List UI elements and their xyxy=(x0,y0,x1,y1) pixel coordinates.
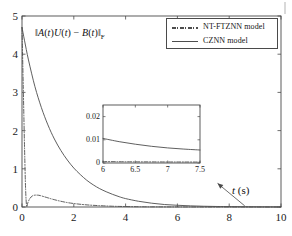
inset-y-tick-label: 0.01 xyxy=(86,136,100,144)
y-tick-label: 3 xyxy=(13,87,19,98)
legend-label-ntftznn: NT-FTZNN model xyxy=(203,22,265,31)
y-tick-label: 2 xyxy=(13,126,19,137)
legend-sample-solid xyxy=(172,41,198,42)
x-tick-label: 4 xyxy=(123,212,129,223)
figure-container: ‖A(t)U(t) − B(t)‖F t (s) NT-FTZNN model … xyxy=(0,0,292,236)
legend-sample-dashdot xyxy=(172,27,198,29)
inset-y-tick-label: 0.02 xyxy=(86,113,100,121)
y-tick-label: 5 xyxy=(13,11,19,22)
x-tick-label: 10 xyxy=(276,212,287,223)
x-axis-label: t (s) xyxy=(232,184,249,196)
legend-entry-ntftznn: NT-FTZNN model xyxy=(167,21,277,35)
y-axis-label: ‖A(t)U(t) − B(t)‖F xyxy=(35,27,105,41)
x-tick-label: 0 xyxy=(19,212,25,223)
y-tick-label: 1 xyxy=(13,164,19,175)
inset-x-tick-label: 6 xyxy=(101,166,105,174)
inset-x-tick-label: 7.5 xyxy=(195,166,205,174)
inset-plot-frame xyxy=(103,105,200,163)
y-tick-label: 4 xyxy=(13,49,19,60)
inset-x-tick-label: 7 xyxy=(166,166,170,174)
legend-label-cznn: CZNN model xyxy=(203,36,248,45)
x-tick-label: 8 xyxy=(226,212,232,223)
inset-x-tick-label: 6.5 xyxy=(130,166,140,174)
inset-y-tick-label: 0 xyxy=(96,159,100,167)
legend-entry-cznn: CZNN model xyxy=(167,35,277,49)
x-tick-label: 6 xyxy=(175,212,181,223)
y-tick-label: 0 xyxy=(13,202,19,213)
legend-box: NT-FTZNN model CZNN model xyxy=(166,18,278,49)
x-tick-label: 2 xyxy=(71,212,77,223)
